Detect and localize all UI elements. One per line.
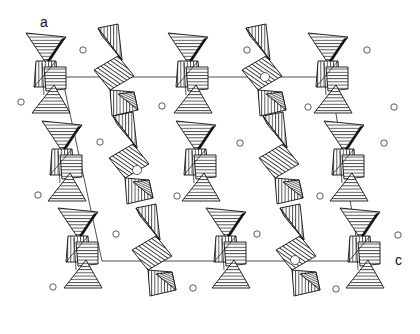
polyhedra-column-5 xyxy=(308,33,384,288)
crystal-structure-diagram: a c xyxy=(0,0,420,334)
ion xyxy=(97,139,103,145)
ion xyxy=(190,285,196,291)
axis-label-c: c xyxy=(395,252,402,268)
ion xyxy=(317,193,323,199)
polyhedra-column-3 xyxy=(168,33,250,288)
ion xyxy=(174,193,180,199)
ion xyxy=(261,73,270,82)
polyhedra-column-1 xyxy=(26,33,102,288)
ion xyxy=(80,47,86,53)
ion xyxy=(381,140,387,146)
polyhedra-column-2 xyxy=(94,24,176,296)
ion xyxy=(50,284,56,290)
ion xyxy=(364,47,370,53)
ion xyxy=(254,231,260,237)
ion xyxy=(244,47,250,53)
ion xyxy=(395,232,401,238)
ion xyxy=(133,166,142,175)
ion xyxy=(113,231,119,237)
ion xyxy=(333,286,339,292)
ion xyxy=(391,104,397,110)
ion xyxy=(291,256,300,265)
ion xyxy=(305,104,311,110)
ion xyxy=(35,192,41,198)
polyhedra-column-4 xyxy=(242,24,320,296)
axis-label-a: a xyxy=(40,14,48,30)
structure-canvas xyxy=(0,0,420,334)
ion xyxy=(159,103,165,109)
ion xyxy=(18,99,24,105)
ion xyxy=(237,140,243,146)
